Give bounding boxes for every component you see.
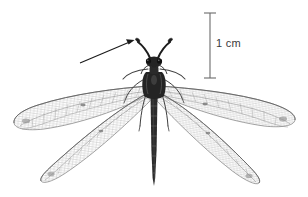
antenna-pointer-arrow <box>80 39 135 63</box>
antennae-group <box>135 38 172 58</box>
specimen-figure: 1 cm <box>0 0 308 197</box>
antlion-illustration <box>0 0 308 197</box>
body-group <box>141 57 167 187</box>
scale-bar-label: 1 cm <box>216 37 241 50</box>
scale-bar <box>204 13 216 78</box>
